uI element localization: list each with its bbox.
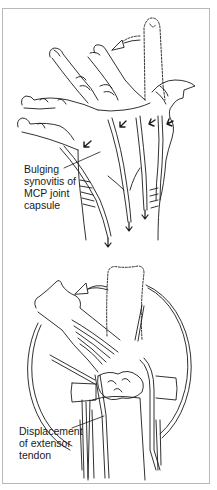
tendon-label-line-3: tendon — [19, 449, 83, 461]
hand-drawing — [18, 18, 196, 247]
collateral-right — [156, 376, 177, 400]
retractor-left — [50, 355, 95, 384]
synovitis-label-line-4: capsule — [24, 199, 76, 211]
retractor-right — [135, 305, 144, 341]
tendon-displacement-label: Displacement of extensor tendon — [19, 425, 83, 461]
ghost-bone-outline — [107, 266, 144, 340]
extensor-tendon — [95, 375, 105, 478]
curved-arrow-icon — [112, 36, 140, 50]
down-arrow-icons — [105, 210, 148, 247]
curved-arrow-icon-2 — [75, 283, 108, 294]
synovitis-label: Bulging synovitis of MCP joint capsule — [24, 163, 76, 211]
synovium-tissue — [98, 371, 144, 399]
synovitis-label-line-3: MCP joint — [24, 187, 76, 199]
hand-illustration — [0, 0, 217, 490]
displacement-arrow-icons — [84, 119, 173, 147]
tendon-label-line-1: Displacement — [19, 425, 83, 437]
collateral-left — [71, 383, 96, 402]
tendon-3 — [136, 118, 144, 210]
tendon-label-line-2: of extensor — [19, 437, 83, 449]
tendon-4 — [156, 116, 159, 200]
synovitis-label-line-1: Bulging — [24, 163, 76, 175]
synovitis-label-line-2: synovitis of — [24, 175, 76, 187]
